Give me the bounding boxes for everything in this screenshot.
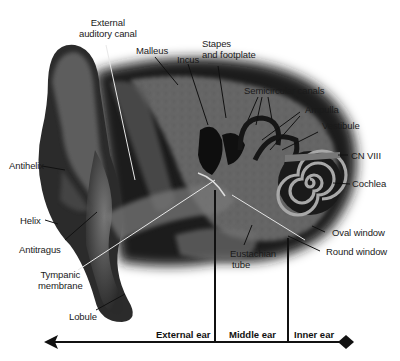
arrow-right-diamond-icon <box>338 335 354 349</box>
label-line-2: and footplate <box>202 49 256 60</box>
region-middle-ear: Middle ear <box>229 329 276 340</box>
label-line-1: Tympanic <box>38 269 83 280</box>
label-round-window: Round window <box>326 246 387 257</box>
label-semicircular-canals: Semicircular canals <box>244 85 324 96</box>
label-lobule: Lobule <box>69 311 97 322</box>
label-line-1: External <box>79 17 137 28</box>
label-tympanic-membrane: Tympanic membrane <box>38 269 83 291</box>
label-cochlea: Cochlea <box>352 178 386 189</box>
region-inner-ear: Inner ear <box>294 329 334 340</box>
label-stapes: Stapes and footplate <box>202 38 256 60</box>
label-malleus: Malleus <box>136 45 168 56</box>
ear-anatomy-illustration <box>0 0 400 361</box>
label-line-1: Stapes <box>202 38 256 49</box>
label-line-1: Eustachian <box>230 248 276 259</box>
label-antitragus: Antitragus <box>19 244 61 255</box>
label-cn-viii: CN VIII <box>351 150 381 161</box>
label-oval-window: Oval window <box>332 227 385 238</box>
label-antihelix: Antihelix <box>9 160 44 171</box>
label-external-auditory-canal: External auditory canal <box>79 17 137 39</box>
label-eustachian-tube: Eustachian tube <box>230 248 276 270</box>
label-vestibule: Vestibule <box>322 120 360 131</box>
label-line-2: auditory canal <box>79 28 137 39</box>
label-ampulla: Ampulla <box>305 104 339 115</box>
label-helix: Helix <box>20 215 41 226</box>
label-line-2: tube <box>230 259 276 270</box>
region-external-ear: External ear <box>156 329 210 340</box>
label-line-2: membrane <box>38 280 83 291</box>
label-incus: Incus <box>177 54 199 65</box>
